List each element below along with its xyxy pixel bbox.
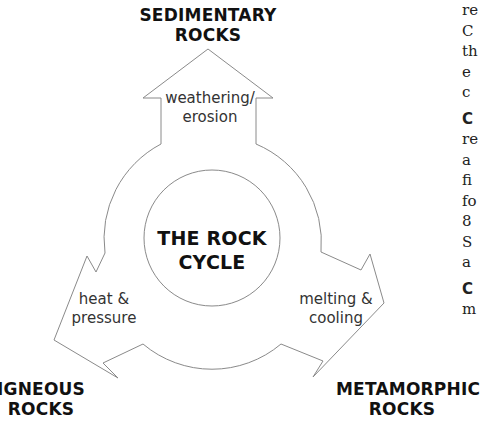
rock-cycle-title: THE ROCK CYCLE bbox=[144, 226, 280, 274]
heat-line-1: heat & bbox=[54, 290, 154, 309]
side-text-line: 8 bbox=[462, 211, 484, 232]
metamorphic-rocks-label: METAMORPHIC ROCKS bbox=[336, 380, 468, 419]
side-text-line: fo bbox=[462, 191, 484, 212]
melting-cooling-label: melting & cooling bbox=[286, 290, 386, 328]
igneous-line-2: ROCKS bbox=[0, 400, 88, 420]
side-text-line: e bbox=[462, 62, 484, 83]
title-line-2: CYCLE bbox=[144, 250, 280, 274]
sedimentary-line-2: ROCKS bbox=[128, 26, 288, 46]
side-text-heading: C bbox=[462, 279, 484, 300]
side-text-line: re bbox=[462, 0, 484, 21]
side-text-line: fi bbox=[462, 170, 484, 191]
sedimentary-line-1: SEDIMENTARY bbox=[128, 6, 288, 26]
weathering-erosion-label: weathering/ erosion bbox=[155, 89, 265, 127]
side-text-line: th bbox=[462, 41, 484, 62]
side-text-heading: C bbox=[462, 109, 484, 130]
heat-line-2: pressure bbox=[54, 309, 154, 328]
side-text-line: re bbox=[462, 129, 484, 150]
igneous-rocks-label: IGNEOUS ROCKS bbox=[0, 380, 88, 419]
melting-line-2: cooling bbox=[286, 309, 386, 328]
side-text-line: S bbox=[462, 232, 484, 253]
weathering-line-1: weathering/ bbox=[155, 89, 265, 108]
side-text-line: a bbox=[462, 150, 484, 171]
clipped-side-text: re C th e c C re a fi fo 8 S a C m bbox=[462, 0, 484, 320]
title-line-1: THE ROCK bbox=[144, 226, 280, 250]
side-text-line: c bbox=[462, 82, 484, 103]
side-text-line: m bbox=[462, 299, 484, 320]
melting-line-1: melting & bbox=[286, 290, 386, 309]
side-text-line: a bbox=[462, 252, 484, 273]
side-text-line: C bbox=[462, 21, 484, 42]
heat-pressure-label: heat & pressure bbox=[54, 290, 154, 328]
sedimentary-rocks-label: SEDIMENTARY ROCKS bbox=[128, 6, 288, 45]
weathering-line-2: erosion bbox=[155, 108, 265, 127]
metamorphic-line-2: ROCKS bbox=[336, 400, 468, 420]
outer-arc-bottom bbox=[143, 344, 281, 369]
metamorphic-line-1: METAMORPHIC bbox=[336, 380, 468, 400]
igneous-line-1: IGNEOUS bbox=[0, 380, 88, 400]
